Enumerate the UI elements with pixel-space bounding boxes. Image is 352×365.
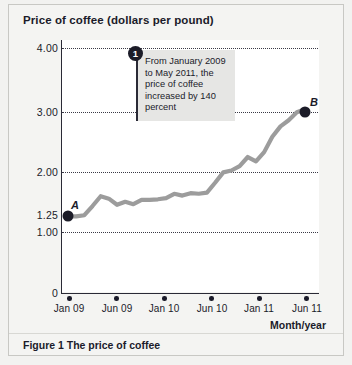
callout-annotation: From January 2009 to May 2011, the price… bbox=[136, 50, 235, 121]
x-tick-dot-jan-11 bbox=[257, 296, 262, 301]
y-tick-label-3-00: 3.00 bbox=[18, 106, 58, 118]
gridline-2-00 bbox=[62, 172, 318, 173]
data-point-b-marker bbox=[300, 107, 311, 118]
y-tick-label-4-00: 4.00 bbox=[18, 42, 58, 54]
y-tick-label-2-00: 2.00 bbox=[18, 166, 58, 178]
x-tick-dot-jun-09 bbox=[114, 296, 119, 301]
x-tick-label-jan-10: Jan 10 bbox=[149, 303, 180, 314]
x-tick-label-jun-10: Jun 10 bbox=[197, 303, 228, 314]
x-tick-label-jun-09: Jun 09 bbox=[102, 303, 133, 314]
figure-container: Price of coffee (dollars per pound) 4.00… bbox=[0, 0, 352, 365]
x-tick-label-jun-11: Jun 11 bbox=[292, 303, 322, 314]
x-tick-label-jan-09: Jan 09 bbox=[54, 303, 85, 314]
y-axis bbox=[61, 40, 62, 294]
gridline-4-00 bbox=[62, 48, 318, 49]
data-point-a-label: A bbox=[71, 199, 79, 211]
caption-divider bbox=[9, 333, 343, 334]
y-tick-label-1-25: 1.25 bbox=[18, 209, 58, 221]
figure-caption: Figure 1 The price of coffee bbox=[23, 339, 160, 351]
x-tick-dot-jan-09 bbox=[67, 296, 72, 301]
gridline-1-00 bbox=[62, 232, 318, 233]
data-point-a-marker bbox=[63, 211, 74, 222]
x-tick-dot-jan-10 bbox=[162, 296, 167, 301]
x-axis-title: Month/year bbox=[270, 319, 326, 331]
x-tick-dot-jun-11 bbox=[304, 296, 309, 301]
y-tick-label-0: 0 bbox=[18, 287, 58, 299]
data-point-b-label: B bbox=[310, 96, 318, 108]
x-axis bbox=[61, 293, 319, 294]
chart-title: Price of coffee (dollars per pound) bbox=[23, 14, 214, 26]
x-tick-dot-jun-10 bbox=[209, 296, 214, 301]
callout-badge-1: 1 bbox=[128, 46, 143, 61]
x-tick-label-jan-11: Jan 11 bbox=[244, 303, 274, 314]
y-tick-label-1-00: 1.00 bbox=[18, 226, 58, 238]
